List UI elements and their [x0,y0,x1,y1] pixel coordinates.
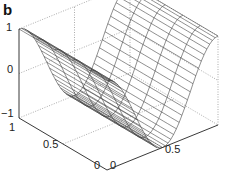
mesh-line-y [75,96,163,148]
mesh-line-y [72,96,160,148]
mesh-line-x [37,0,148,106]
z-tick-label: 1 [6,22,12,33]
mesh-line-y [102,40,190,92]
mesh-line-y [83,87,171,139]
mesh-line-y [27,31,115,83]
mesh-line-y [41,51,129,103]
mesh-line-y [119,0,207,49]
mesh-line-y [116,3,204,55]
mesh-line-y [127,0,215,38]
mesh-line-y [61,88,149,140]
mesh-line-y [77,94,165,146]
x-tick-label: 0.5 [165,144,180,155]
mesh-line-y [94,63,182,115]
x-tick-label: 0 [110,160,116,171]
y-tick-label: 0.5 [43,139,58,150]
mesh-line-y [69,96,157,148]
box-top-dotted [19,0,218,36]
mesh-line-y [80,91,168,143]
mesh-surface-plot [0,0,226,172]
mesh-line-y [100,48,188,100]
mesh-line-y [86,83,174,135]
mesh-line-y [38,45,126,97]
mesh-line-y [30,33,118,85]
mesh-line-y [113,9,201,61]
z-tick-label: −1 [1,108,14,119]
mesh-line-y [111,16,199,68]
y-tick-label: 1 [9,122,15,133]
y-tick-label: 0 [94,160,100,171]
mesh-line-y [19,29,107,81]
mesh-line-y [55,79,143,131]
z-tick-label: 0 [7,64,13,75]
